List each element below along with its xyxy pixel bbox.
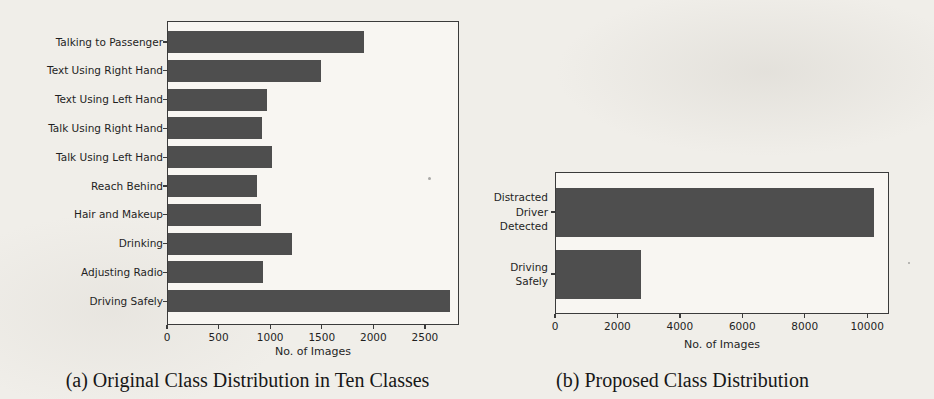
caption-b: (b) Proposed Class Distribution — [449, 368, 916, 392]
y-tickmark — [163, 185, 167, 186]
x-tick-label: 1500 — [308, 331, 335, 343]
y-tick-label: DrivingSafely — [510, 260, 548, 289]
bar — [168, 117, 262, 139]
x-tick-label: 2000 — [360, 331, 387, 343]
x-tick-label: 2000 — [604, 320, 631, 332]
y-tickmark — [163, 99, 167, 100]
y-tick-label: Text Using Right Hand — [47, 64, 163, 77]
y-tick-label: Adjusting Radio — [81, 266, 163, 279]
x-tick-label: 10000 — [850, 320, 883, 332]
x-tick-label: 6000 — [729, 320, 756, 332]
y-tickmark — [163, 41, 167, 42]
x-tick-label: 8000 — [791, 320, 818, 332]
bar — [168, 233, 292, 255]
x-tickmark — [218, 325, 219, 329]
y-tick-label: Drinking — [119, 237, 163, 250]
y-tick-label: Reach Behind — [91, 180, 163, 193]
x-tickmark — [742, 314, 743, 318]
x-tick-label: 1000 — [257, 331, 284, 343]
bar — [556, 188, 874, 237]
y-tick-label: Hair and Makeup — [74, 208, 163, 221]
chart-original-distribution: Talking to PassengerText Using Right Han… — [0, 0, 467, 362]
x-tickmark — [867, 314, 868, 318]
y-tickmark — [163, 157, 167, 158]
x-tick-label: 2500 — [412, 331, 439, 343]
scan-speck — [428, 177, 431, 180]
x-axis-label: No. of Images — [684, 338, 760, 351]
y-tick-label: DistractedDriverDetected — [494, 190, 548, 234]
x-tickmark — [321, 325, 322, 329]
bar — [168, 60, 321, 82]
y-tickmark — [163, 70, 167, 71]
x-tick-label: 0 — [552, 320, 559, 332]
y-tickmark — [551, 211, 555, 212]
x-tick-label: 4000 — [666, 320, 693, 332]
y-tick-label: Talk Using Right Hand — [48, 122, 163, 135]
bar — [168, 31, 364, 53]
x-axis-label: No. of Images — [275, 345, 351, 358]
y-tick-label: Text Using Left Hand — [55, 93, 163, 106]
y-tick-label: Talking to Passenger — [56, 36, 163, 49]
figure-class-distribution: Talking to PassengerText Using Right Han… — [0, 0, 934, 399]
bar — [168, 261, 263, 283]
x-tickmark — [679, 314, 680, 318]
y-tickmark — [163, 128, 167, 129]
bar — [556, 250, 641, 299]
y-tick-label: Driving Safely — [90, 295, 164, 308]
y-tickmark — [163, 214, 167, 215]
y-tickmark — [551, 273, 555, 274]
x-tickmark — [804, 314, 805, 318]
x-tickmark — [373, 325, 374, 329]
bar — [168, 89, 267, 111]
x-tickmark — [554, 314, 555, 318]
bar — [168, 204, 261, 226]
bar — [168, 146, 272, 168]
caption-a: (a) Original Class Distribution in Ten C… — [14, 368, 481, 392]
x-tick-label: 500 — [209, 331, 229, 343]
x-tick-label: 0 — [164, 331, 171, 343]
y-tickmark — [163, 301, 167, 302]
y-tickmark — [163, 243, 167, 244]
scan-speck — [908, 262, 910, 264]
bar — [168, 290, 450, 312]
x-tickmark — [166, 325, 167, 329]
x-tickmark — [424, 325, 425, 329]
y-tick-label: Talk Using Left Hand — [56, 151, 163, 164]
x-tickmark — [617, 314, 618, 318]
bar — [168, 175, 257, 197]
x-tickmark — [270, 325, 271, 329]
y-tickmark — [163, 272, 167, 273]
chart-proposed-distribution: DistractedDriverDetectedDrivingSafely020… — [467, 0, 934, 362]
